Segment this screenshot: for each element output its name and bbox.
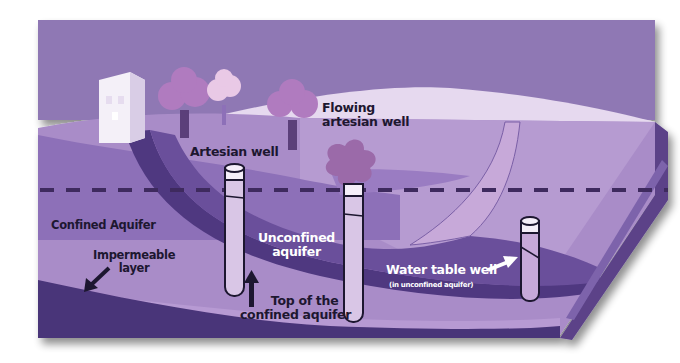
label-line: aquifer (258, 245, 335, 259)
label-unconfined-aquifer: Unconfined aquifer (258, 231, 335, 259)
label-top-of-confined-aquifer: Top of the confined aquifer (240, 294, 351, 322)
label-artesian-well: Artesian well (190, 145, 278, 159)
building-icon (99, 72, 145, 143)
label-line: Unconfined (258, 231, 335, 245)
label-line: confined aquifer (240, 308, 351, 322)
label-water-table-well: Water table well (386, 263, 497, 277)
well-icon (225, 164, 244, 296)
well-icon (521, 217, 539, 301)
label-impermeable-layer: Impermeable layer (93, 249, 175, 274)
label-line: artesian well (322, 115, 409, 129)
label-flowing-artesian-well: Flowing artesian well (322, 101, 409, 129)
label-confined-aquifer: Confined Aquifer (51, 219, 156, 232)
label-line: Flowing (322, 101, 409, 115)
label-water-table-well-note: (in unconfined aquifer) (389, 282, 473, 290)
label-line: layer (93, 262, 175, 275)
label-line: Impermeable (93, 249, 175, 262)
label-line: Top of the (240, 294, 351, 308)
